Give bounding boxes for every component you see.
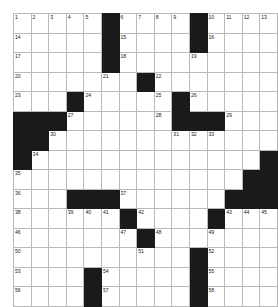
crossword-cell[interactable] — [260, 92, 278, 112]
crossword-cell[interactable]: 22 — [154, 72, 172, 92]
crossword-cell[interactable] — [242, 287, 260, 307]
crossword-cell[interactable]: 44 — [242, 209, 260, 229]
crossword-cell[interactable]: 10 — [207, 14, 225, 34]
crossword-cell[interactable] — [260, 53, 278, 73]
crossword-cell[interactable]: 5 — [84, 14, 102, 34]
crossword-cell[interactable] — [172, 33, 190, 53]
crossword-cell[interactable] — [172, 189, 190, 209]
crossword-cell[interactable]: 50 — [14, 248, 32, 268]
crossword-cell[interactable] — [84, 248, 102, 268]
crossword-cell[interactable] — [119, 131, 137, 151]
crossword-cell[interactable] — [66, 248, 84, 268]
crossword-cell[interactable] — [189, 72, 207, 92]
crossword-cell[interactable] — [207, 170, 225, 190]
crossword-cell[interactable] — [137, 170, 155, 190]
crossword-cell[interactable] — [207, 189, 225, 209]
crossword-cell[interactable]: 46 — [14, 228, 32, 248]
crossword-cell[interactable] — [225, 33, 243, 53]
crossword-cell[interactable] — [207, 150, 225, 170]
crossword-cell[interactable] — [137, 150, 155, 170]
crossword-cell[interactable]: 39 — [66, 209, 84, 229]
crossword-cell[interactable]: 56 — [14, 287, 32, 307]
crossword-cell[interactable] — [49, 228, 67, 248]
crossword-cell[interactable] — [225, 248, 243, 268]
crossword-cell[interactable] — [66, 53, 84, 73]
crossword-cell[interactable]: 27 — [66, 111, 84, 131]
crossword-cell[interactable]: 1 — [14, 14, 32, 34]
crossword-cell[interactable] — [49, 33, 67, 53]
crossword-cell[interactable] — [260, 267, 278, 287]
crossword-cell[interactable] — [154, 131, 172, 151]
crossword-cell[interactable] — [225, 287, 243, 307]
crossword-cell[interactable] — [119, 267, 137, 287]
crossword-cell[interactable] — [31, 189, 49, 209]
crossword-cell[interactable] — [49, 150, 67, 170]
crossword-cell[interactable]: 35 — [14, 170, 32, 190]
crossword-cell[interactable] — [119, 150, 137, 170]
crossword-cell[interactable] — [49, 72, 67, 92]
crossword-cell[interactable] — [225, 150, 243, 170]
crossword-cell[interactable]: 9 — [172, 14, 190, 34]
crossword-cell[interactable]: 24 — [84, 92, 102, 112]
crossword-cell[interactable] — [31, 53, 49, 73]
crossword-cell[interactable] — [225, 131, 243, 151]
crossword-cell[interactable]: 18 — [119, 53, 137, 73]
crossword-cell[interactable] — [49, 287, 67, 307]
crossword-cell[interactable] — [242, 72, 260, 92]
crossword-cell[interactable] — [119, 287, 137, 307]
crossword-cell[interactable] — [137, 267, 155, 287]
crossword-cell[interactable] — [137, 53, 155, 73]
crossword-cell[interactable] — [119, 72, 137, 92]
crossword-cell[interactable] — [154, 248, 172, 268]
crossword-cell[interactable] — [225, 72, 243, 92]
crossword-cell[interactable]: 11 — [225, 14, 243, 34]
crossword-cell[interactable] — [66, 33, 84, 53]
crossword-cell[interactable] — [172, 150, 190, 170]
crossword-cell[interactable] — [66, 287, 84, 307]
crossword-cell[interactable]: 21 — [101, 72, 119, 92]
crossword-cell[interactable] — [31, 287, 49, 307]
crossword-cell[interactable] — [84, 111, 102, 131]
crossword-cell[interactable] — [84, 131, 102, 151]
crossword-cell[interactable]: 20 — [14, 72, 32, 92]
crossword-cell[interactable] — [154, 33, 172, 53]
crossword-cell[interactable] — [66, 72, 84, 92]
crossword-cell[interactable]: 47 — [119, 228, 137, 248]
crossword-cell[interactable] — [225, 228, 243, 248]
crossword-cell[interactable] — [172, 170, 190, 190]
crossword-cell[interactable] — [137, 131, 155, 151]
crossword-cell[interactable] — [137, 92, 155, 112]
crossword-cell[interactable] — [137, 33, 155, 53]
crossword-cell[interactable]: 41 — [101, 209, 119, 229]
crossword-cell[interactable]: 28 — [154, 111, 172, 131]
crossword-cell[interactable] — [101, 92, 119, 112]
crossword-cell[interactable]: 26 — [189, 92, 207, 112]
crossword-cell[interactable] — [119, 92, 137, 112]
crossword-cell[interactable] — [172, 72, 190, 92]
crossword-cell[interactable]: 54 — [101, 267, 119, 287]
crossword-cell[interactable] — [66, 267, 84, 287]
crossword-cell[interactable] — [172, 248, 190, 268]
crossword-cell[interactable] — [189, 189, 207, 209]
crossword-cell[interactable] — [242, 53, 260, 73]
crossword-cell[interactable] — [225, 53, 243, 73]
crossword-cell[interactable] — [49, 170, 67, 190]
crossword-cell[interactable]: 15 — [119, 33, 137, 53]
crossword-cell[interactable] — [172, 209, 190, 229]
crossword-cell[interactable]: 55 — [207, 267, 225, 287]
crossword-cell[interactable] — [172, 53, 190, 73]
crossword-cell[interactable] — [207, 72, 225, 92]
crossword-cell[interactable] — [154, 267, 172, 287]
crossword-cell[interactable] — [84, 72, 102, 92]
crossword-cell[interactable]: 7 — [137, 14, 155, 34]
crossword-cell[interactable] — [260, 287, 278, 307]
crossword-cell[interactable] — [101, 150, 119, 170]
crossword-cell[interactable] — [260, 248, 278, 268]
crossword-cell[interactable]: 45 — [260, 209, 278, 229]
crossword-cell[interactable] — [172, 228, 190, 248]
crossword-cell[interactable]: 4 — [66, 14, 84, 34]
crossword-cell[interactable] — [154, 53, 172, 73]
crossword-cell[interactable] — [154, 287, 172, 307]
crossword-cell[interactable]: 53 — [14, 267, 32, 287]
crossword-cell[interactable] — [242, 150, 260, 170]
